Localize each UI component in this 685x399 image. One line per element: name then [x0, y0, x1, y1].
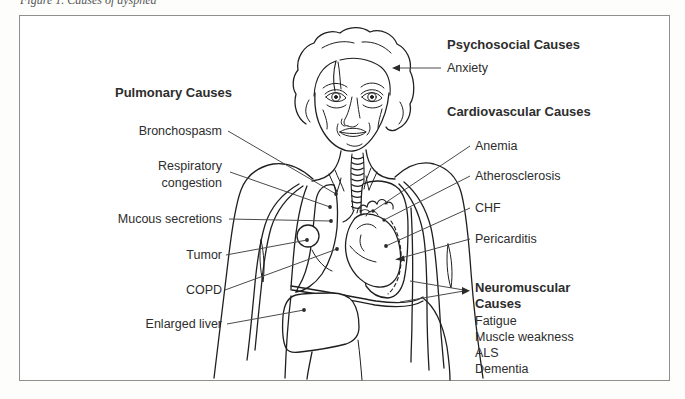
figure-nose-mouth: [323, 97, 382, 146]
arrowhead-anxiety: [392, 65, 400, 72]
leader-respiratory-congestion: [230, 172, 330, 207]
label-mucous-secretions: Mucous secretions: [95, 212, 222, 226]
label-anemia: Anemia: [475, 139, 517, 153]
label-bronchospasm: Bronchospasm: [95, 124, 222, 138]
label-neuromuscular-line1: Neuromuscular: [475, 280, 570, 296]
figure-right-arm: [395, 163, 483, 378]
label-muscle-weakness: Muscle weakness: [475, 330, 574, 344]
figure-tumor-nodule: [297, 225, 319, 247]
label-respiratory-line2: congestion: [95, 175, 222, 192]
label-respiratory-congestion: Respiratory congestion: [95, 158, 222, 192]
figure-liver: [283, 293, 362, 380]
label-psychosocial-causes-header: Psychosocial Causes: [447, 38, 580, 52]
label-dementia: Dementia: [475, 362, 529, 376]
label-neuromuscular-causes-header: Neuromuscular Causes: [475, 280, 570, 312]
figure-eyes: [323, 83, 384, 108]
label-respiratory-line1: Respiratory: [95, 158, 222, 175]
dyspnea-figure-illustration: [0, 0, 685, 399]
label-cardiovascular-causes-header: Cardiovascular Causes: [447, 105, 591, 119]
label-atherosclerosis: Atherosclerosis: [475, 169, 560, 183]
label-pulmonary-causes-header: Pulmonary Causes: [115, 86, 232, 100]
figure-face-outline: [315, 93, 389, 151]
label-pericarditis: Pericarditis: [475, 232, 537, 246]
label-als: ALS: [475, 346, 499, 360]
label-enlarged-liver: Enlarged liver: [95, 317, 222, 331]
label-neuromuscular-line2: Causes: [475, 296, 570, 312]
label-anxiety: Anxiety: [447, 61, 488, 75]
leader-neuromuscular-2: [400, 291, 464, 302]
human-figure: [214, 28, 483, 380]
label-tumor: Tumor: [95, 248, 222, 262]
figure-head: [293, 28, 414, 151]
leader-neuromuscular-1: [410, 281, 464, 290]
label-chf: CHF: [475, 201, 501, 215]
arrowhead-neuromuscular: [462, 287, 470, 295]
label-fatigue: Fatigue: [475, 314, 517, 328]
label-copd: COPD: [95, 283, 222, 297]
